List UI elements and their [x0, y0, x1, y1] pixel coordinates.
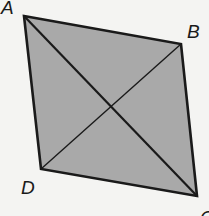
vertex-label-c: C [200, 207, 209, 216]
vertex-label-a: A [0, 0, 14, 18]
vertex-label-d: D [21, 177, 35, 198]
vertex-label-b: B [187, 21, 200, 42]
rhombus-diagram: A B C D [0, 0, 209, 216]
